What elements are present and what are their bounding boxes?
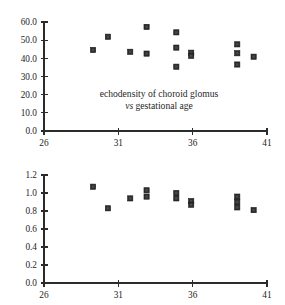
chart-panel-owm-thalamus-ratio: 0.00.20.40.60.81.01.226313641 occipital … bbox=[0, 152, 285, 305]
data-point-marker-core bbox=[107, 36, 109, 38]
data-point-marker-core bbox=[145, 195, 147, 197]
caption-vs-italic: vs bbox=[125, 100, 133, 111]
y-axis-tick-label: 50.0 bbox=[21, 35, 38, 45]
y-axis-tick-label: 20.0 bbox=[21, 90, 38, 100]
data-point-marker-core bbox=[175, 192, 177, 194]
data-point-marker-core bbox=[236, 201, 238, 203]
y-axis-tick-label: 10.0 bbox=[21, 108, 38, 118]
y-axis-tick-label: 1.2 bbox=[25, 170, 37, 180]
y-axis-tick-label: 0.0 bbox=[25, 126, 37, 136]
data-point-marker-core bbox=[145, 26, 147, 28]
data-point-marker-core bbox=[175, 31, 177, 33]
data-point-marker-core bbox=[145, 189, 147, 191]
data-point-marker-core bbox=[252, 56, 254, 58]
x-axis-tick-label: 26 bbox=[39, 290, 49, 300]
y-axis-tick-label: 0.4 bbox=[25, 242, 37, 252]
data-point-marker-core bbox=[175, 66, 177, 68]
data-point-marker-core bbox=[190, 204, 192, 206]
echodensity-plot-area: 0.010.020.030.040.050.060.026313641 bbox=[0, 0, 285, 152]
data-point-marker-core bbox=[107, 207, 109, 209]
data-point-marker-core bbox=[175, 46, 177, 48]
data-point-marker-core bbox=[129, 51, 131, 53]
data-point-marker-core bbox=[252, 209, 254, 211]
data-point-marker-core bbox=[175, 197, 177, 199]
data-point-marker-core bbox=[129, 197, 131, 199]
y-axis-tick-label: 60.0 bbox=[21, 17, 38, 27]
data-point-marker-core bbox=[236, 195, 238, 197]
x-axis-tick-label: 26 bbox=[39, 138, 49, 148]
x-axis-tick-label: 31 bbox=[114, 290, 124, 300]
caption-line-1: echodensity of choroid glomus bbox=[100, 88, 219, 99]
y-axis-tick-label: 30.0 bbox=[21, 72, 38, 82]
data-point-marker-core bbox=[236, 43, 238, 45]
data-point-marker-core bbox=[92, 186, 94, 188]
x-axis-tick-label: 36 bbox=[188, 138, 198, 148]
data-point-marker-core bbox=[236, 206, 238, 208]
caption-line-2-rest: gestational age bbox=[133, 100, 193, 111]
y-axis-tick-label: 0.0 bbox=[25, 278, 37, 288]
x-axis-tick-label: 31 bbox=[114, 138, 124, 148]
y-axis-tick-label: 0.6 bbox=[25, 224, 37, 234]
data-point-marker-core bbox=[236, 52, 238, 54]
y-axis-tick-label: 1.0 bbox=[25, 188, 37, 198]
x-axis-tick-label: 41 bbox=[262, 138, 272, 148]
x-axis-tick-label: 41 bbox=[262, 290, 272, 300]
y-axis-tick-label: 40.0 bbox=[21, 54, 38, 64]
data-point-marker-core bbox=[92, 49, 94, 51]
owm-thalamus-ratio-plot-area: 0.00.20.40.60.81.01.226313641 bbox=[0, 152, 285, 305]
scatter-plot-figure: 0.010.020.030.040.050.060.026313641 echo… bbox=[0, 0, 285, 305]
y-axis-tick-label: 0.8 bbox=[25, 206, 37, 216]
y-axis-tick-label: 0.2 bbox=[25, 260, 37, 270]
data-point-marker-core bbox=[145, 52, 147, 54]
x-axis-tick-label: 36 bbox=[188, 290, 198, 300]
chart-caption-echodensity: echodensity of choroid glomus vs gestati… bbox=[46, 88, 272, 111]
caption-line-2: vs gestational age bbox=[46, 100, 272, 112]
data-point-marker-core bbox=[190, 55, 192, 57]
data-point-marker-core bbox=[236, 63, 238, 65]
chart-panel-echodensity: 0.010.020.030.040.050.060.026313641 echo… bbox=[0, 0, 285, 152]
